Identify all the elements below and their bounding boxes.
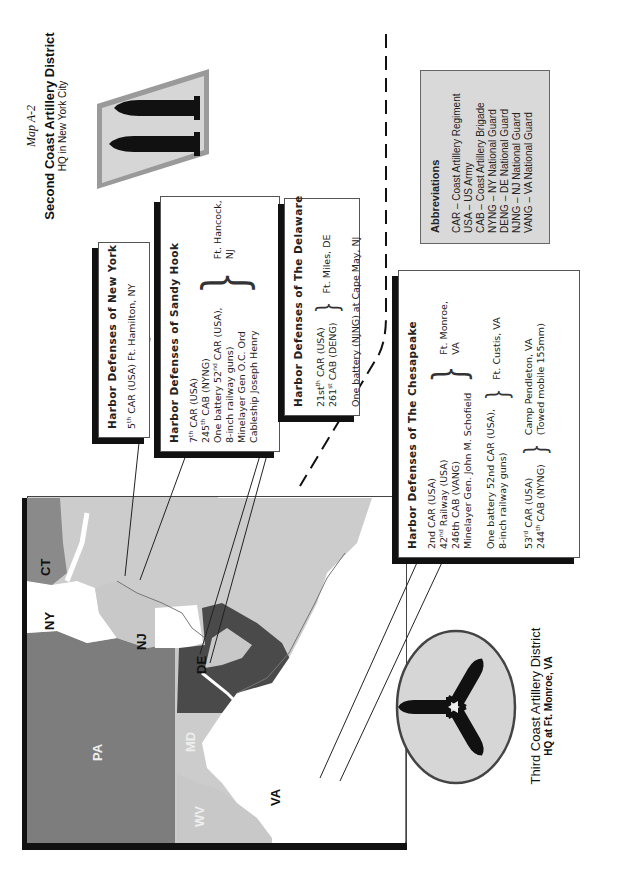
harbor-defenses-new-york: Harbor Defenses of New York 5th CAR (USA…	[98, 242, 150, 438]
abbr-item: CAR – Coast Artillery Regiment	[451, 81, 463, 233]
harbor-defenses-delaware: Harbor Defenses of The Delaware 21stth C…	[284, 198, 360, 416]
abbr-item: NYNG – NY National Guard	[487, 81, 499, 233]
hd-delaware-location: Ft. Miles, DE	[321, 235, 333, 294]
abbr-item: VANG – VA National Guard	[523, 81, 535, 233]
abbr-item: CAB – Coast Artillery Brigade	[475, 81, 487, 233]
brace-icon: }	[194, 272, 254, 295]
hd-new-york-title: Harbor Defenses of New York	[106, 251, 118, 429]
hd-chesapeake-group2: One battery 52nd CAR (USA), 8-inch railw…	[485, 409, 509, 549]
abbr-item: NJNG – NJ National Guard	[511, 81, 523, 233]
abbreviations-legend: Abbreviations CAR – Coast Artillery Regi…	[420, 70, 550, 244]
hd-chesapeake-group3: 53rd CAR (USA) 244th CAB (NYNG)	[523, 464, 547, 549]
map-page: CT NY NJ PA DE MD WV VA Harbor Defenses …	[0, 0, 617, 876]
hd-delaware-title: Harbor Defenses of The Delaware	[292, 207, 304, 407]
brace-icon: }	[428, 365, 472, 382]
map-number: Map A-2	[24, 16, 39, 236]
brace-icon: }	[312, 302, 342, 313]
hd-chesapeake-location2: Ft. Custis, VA	[491, 317, 503, 380]
abbr-item: USA – US Army	[463, 81, 475, 233]
third-district-title: Third Coast Artillery District	[528, 606, 543, 806]
hd-delaware-extra: One battery (NJNG) at Cape May, NJ	[350, 207, 362, 407]
hd-sandy-hook-units: 7th CAR (USA) 245th CAB (NYNG) One batte…	[188, 307, 260, 443]
second-district-hq: HQ in New York City	[57, 16, 68, 236]
hd-chesapeake-location3: Camp Pendleton, VA (Towed mobile 155mm)	[523, 323, 547, 435]
three-shells-oval-icon	[394, 628, 518, 786]
brace-icon: }	[520, 444, 550, 455]
abbr-item: DENG – DE National Guard	[499, 81, 511, 233]
second-district-title: Second Coast Artillery District	[42, 16, 57, 236]
twin-shells-parallelogram-icon	[94, 66, 212, 192]
hd-new-york-unit: 5th CAR (USA) Ft. Hamilton, NY	[126, 251, 138, 429]
abbreviations-title: Abbreviations	[429, 81, 441, 233]
hd-sandy-hook-title: Harbor Defenses of Sandy Hook	[168, 205, 180, 443]
brace-icon: }	[482, 389, 512, 400]
harbor-defenses-sandy-hook: Harbor Defenses of Sandy Hook 7th CAR (U…	[160, 196, 280, 452]
hd-chesapeake-units: 2nd CAR (USA) 42nd Railway (USA) 246th C…	[426, 393, 474, 549]
third-district-title-block: Third Coast Artillery District HQ at Ft.…	[528, 606, 554, 806]
hd-sandy-hook-location: Ft. Hancock, NJ	[212, 200, 236, 259]
hd-chesapeake-location: Ft. Monroe, VA	[438, 301, 462, 355]
harbor-defenses-chesapeake: Harbor Defenses of The Chesapeake 2nd CA…	[398, 270, 580, 558]
hd-chesapeake-title: Harbor Defenses of The Chesapeake	[406, 279, 418, 549]
hd-delaware-units: 21stth CAR (USA) 261st CAB (DENG)	[315, 322, 339, 407]
second-district-title-block: Map A-2 Second Coast Artillery District …	[24, 16, 68, 236]
third-district-hq: HQ at Ft. Monroe, VA	[543, 606, 554, 806]
